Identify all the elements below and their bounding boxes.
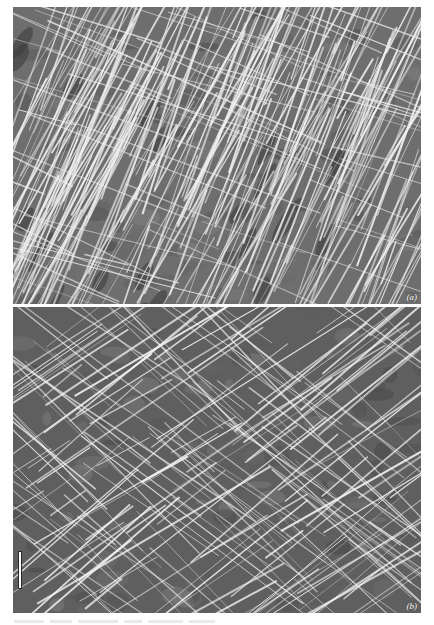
micrograph-panel-b: (b) (13, 307, 421, 613)
scale-bar (18, 551, 22, 589)
micrograph-panel-a: (a) (13, 7, 421, 304)
panel-label-b: (b) (406, 601, 419, 611)
fibre-texture-a (13, 7, 421, 304)
fibre-texture-b (13, 307, 421, 613)
panel-label-a: (a) (406, 292, 419, 302)
caption-fragment (14, 617, 244, 625)
